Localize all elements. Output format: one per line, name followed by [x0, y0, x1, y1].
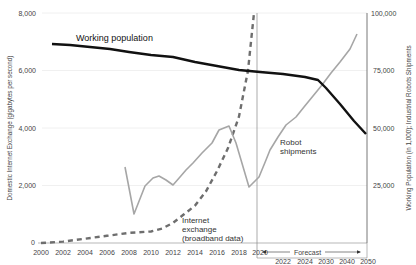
x-tick: 2040 [339, 258, 355, 265]
x-tick: 2030 [318, 258, 334, 265]
chart-container: 8,000 6,000 4,000 2,000 0 100,000 75,000… [0, 0, 416, 265]
x-tick: 2024 [297, 258, 313, 265]
x-tick: 2022 [275, 258, 291, 265]
x-axis-forecast-labels: 2022 2024 2030 2040 2050 [0, 0, 416, 265]
x-tick: 2050 [360, 258, 376, 265]
